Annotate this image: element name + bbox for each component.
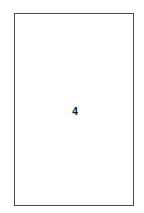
page-thumbnail[interactable]: 4 [14, 13, 134, 206]
page-number-label: 4 [15, 106, 135, 118]
